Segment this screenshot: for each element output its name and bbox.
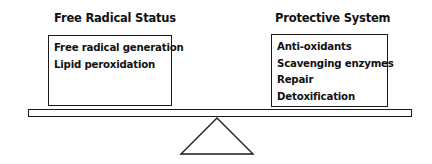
fulcrum-triangle bbox=[0, 0, 432, 164]
